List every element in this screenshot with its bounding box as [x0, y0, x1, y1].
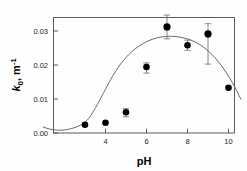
y-axis-title-unit: m: [10, 65, 22, 75]
x-tick-label-0: 4: [103, 137, 107, 146]
x-axis-tick-labels: 4 6 8 10: [103, 137, 232, 146]
svg-text:k0, m-1: k0, m-1: [9, 58, 25, 91]
data-point-ph10: [225, 85, 232, 92]
error-bar-ph9: [205, 24, 211, 64]
data-points: [82, 23, 232, 128]
y-axis-title: k0, m-1: [9, 58, 25, 91]
data-point-ph4: [102, 120, 109, 127]
data-point-ph6: [143, 64, 150, 71]
fit-curve: [43, 36, 241, 130]
data-point-ph9: [204, 30, 211, 37]
data-point-ph3: [82, 122, 89, 129]
chart-figure: 0.00 0.01 0.02 0.03 4 6 8 10 pH k0, m-1: [0, 0, 247, 171]
x-axis-ticks: [106, 129, 229, 134]
y-axis-tick-labels: 0.00 0.01 0.02 0.03: [33, 27, 48, 138]
x-tick-label-1: 6: [144, 137, 148, 146]
x-axis-title: pH: [137, 155, 152, 167]
chart-plot-area: 0.00 0.01 0.02 0.03 4 6 8 10 pH k0, m-1: [0, 0, 247, 171]
y-tick-label-1: 0.01: [33, 95, 48, 104]
x-tick-label-2: 8: [185, 137, 189, 146]
y-axis-ticks: [54, 31, 59, 133]
y-tick-label-2: 0.02: [33, 61, 48, 70]
data-point-ph8: [184, 42, 191, 49]
y-tick-label-0: 0.00: [33, 129, 48, 138]
data-point-ph5: [123, 109, 130, 116]
y-tick-label-3: 0.03: [33, 27, 48, 36]
x-tick-label-3: 10: [224, 137, 232, 146]
y-axis-title-unit-exponent: -1: [9, 58, 18, 65]
data-point-ph7: [163, 23, 170, 30]
